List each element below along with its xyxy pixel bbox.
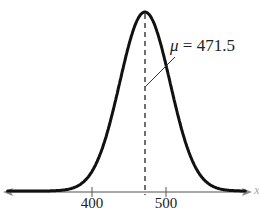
mean-value: = 471.5 <box>179 36 235 55</box>
tick-label-500: 500 <box>155 195 178 212</box>
mean-annotation: μ = 471.5 <box>170 36 235 56</box>
mu-symbol: μ <box>170 36 179 55</box>
tick-label-400: 400 <box>81 195 104 212</box>
x-axis-label: x <box>254 182 259 198</box>
normal-curve-chart <box>0 0 259 213</box>
